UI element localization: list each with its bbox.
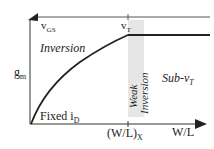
wlx-label: (W/L)X [107, 127, 143, 139]
weak-label-line2: Inversion [139, 72, 150, 114]
vgs-label: vGS [41, 20, 56, 31]
x-axis-label: W/L [172, 126, 194, 138]
x-axis-arrow-icon [195, 119, 207, 129]
inversion-label: Inversion [40, 42, 85, 54]
y-axis-label: gm [14, 66, 26, 78]
sub-vt-label: Sub-vT [162, 72, 194, 84]
vt-label: vT [121, 20, 131, 31]
vgs-arrow-icon [28, 13, 38, 21]
fixed-id-label: Fixed iD [40, 110, 79, 122]
